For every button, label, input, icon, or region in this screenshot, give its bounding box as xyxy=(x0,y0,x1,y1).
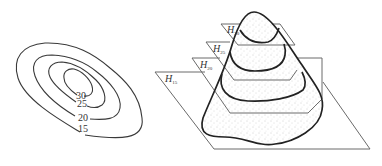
contour-label-15: 15 xyxy=(78,123,88,134)
contour-label-20: 20 xyxy=(78,112,88,123)
plane-label-h20: H20 xyxy=(199,59,213,71)
contour-label-25: 25 xyxy=(77,98,87,109)
plane-label-h15: H15 xyxy=(164,73,178,85)
mountain-3d: H30 H25 H20 H15 xyxy=(155,12,370,149)
contour-line-20 xyxy=(34,55,121,119)
contour-map: 30 25 20 15 xyxy=(16,43,142,138)
contour-diagram: 30 25 20 15 H30 H25 H20 H15 xyxy=(0,0,382,166)
plane-label-h25: H25 xyxy=(212,43,226,55)
